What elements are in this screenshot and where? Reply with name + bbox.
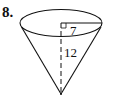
cone-right-side — [61, 27, 101, 94]
cone-left-side — [22, 27, 62, 94]
apex-point — [60, 93, 62, 95]
radius-label: 7 — [70, 23, 77, 38]
right-angle-marker — [61, 23, 66, 28]
cone-diagram: 7 12 — [0, 0, 116, 112]
height-label: 12 — [64, 45, 77, 60]
